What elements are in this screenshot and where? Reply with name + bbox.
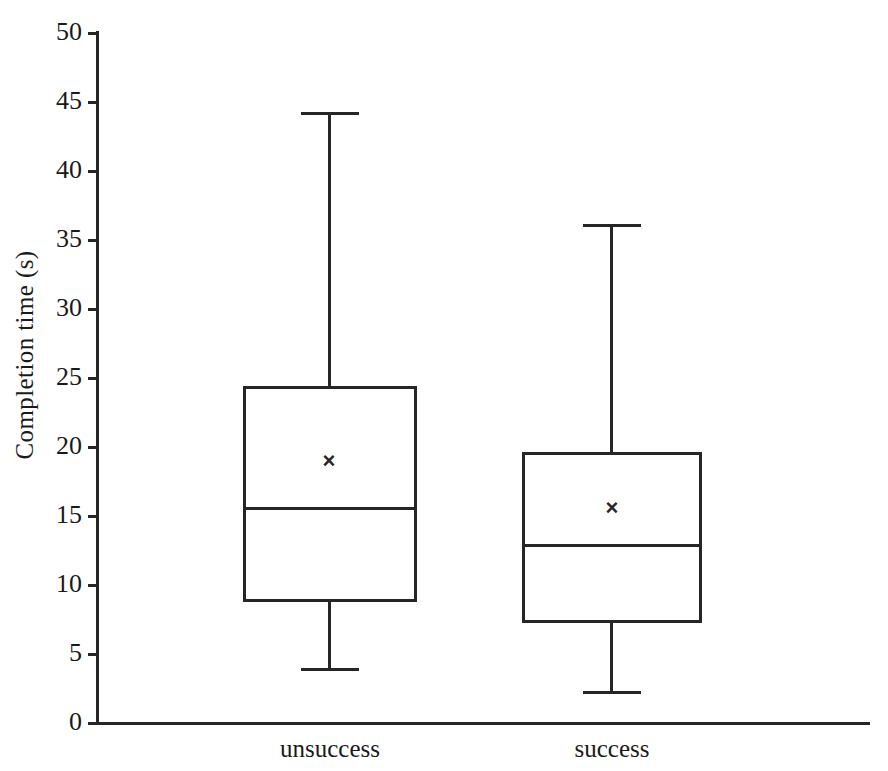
y-tick-label-20: 20 <box>36 433 82 459</box>
y-tick-mark-45 <box>88 101 97 104</box>
box-unsuccess-upper-whisker-stem <box>328 112 331 387</box>
box-unsuccess-lower-whisker-cap <box>301 668 359 671</box>
box-unsuccess-mean-marker: × <box>318 450 340 472</box>
y-tick-mark-20 <box>88 446 97 449</box>
box-unsuccess-median-line <box>243 507 417 510</box>
y-tick-label-wrap-15: 15 <box>20 502 82 528</box>
y-tick-mark-15 <box>88 515 97 518</box>
y-tick-label-wrap-10: 10 <box>20 571 82 597</box>
y-tick-label-5: 5 <box>36 640 82 666</box>
y-tick-label-50: 50 <box>36 19 82 45</box>
y-tick-mark-0 <box>88 722 97 725</box>
y-tick-label-10: 10 <box>36 571 82 597</box>
y-tick-label-15: 15 <box>36 502 82 528</box>
y-tick-label-45: 45 <box>36 88 82 114</box>
y-tick-label-30: 30 <box>36 295 82 321</box>
y-tick-label-35: 35 <box>36 226 82 252</box>
x-axis-label-unsuccess: unsuccess <box>230 735 430 763</box>
y-tick-label-wrap-35: 35 <box>20 226 82 252</box>
y-tick-label-0: 0 <box>36 709 82 735</box>
x-axis-line <box>96 722 870 725</box>
box-unsuccess-lower-whisker-stem <box>328 601 331 669</box>
y-tick-label-wrap-5: 5 <box>20 640 82 666</box>
y-tick-label-wrap-20: 20 <box>20 433 82 459</box>
y-tick-label-25: 25 <box>36 364 82 390</box>
y-tick-label-wrap-45: 45 <box>20 88 82 114</box>
y-tick-label-wrap-30: 30 <box>20 295 82 321</box>
y-tick-label-wrap-25: 25 <box>20 364 82 390</box>
box-plot-chart: Completion time (s) 50 45 40 35 30 25 20… <box>0 0 888 771</box>
box-unsuccess-body <box>243 386 417 602</box>
box-success-lower-whisker-cap <box>583 691 641 694</box>
x-axis-label-success: success <box>512 735 712 763</box>
box-success-mean-marker: × <box>601 497 623 519</box>
y-tick-mark-10 <box>88 584 97 587</box>
y-tick-mark-30 <box>88 308 97 311</box>
y-tick-label-wrap-40: 40 <box>20 157 82 183</box>
y-tick-mark-40 <box>88 170 97 173</box>
y-tick-mark-5 <box>88 653 97 656</box>
box-success-upper-whisker-stem <box>610 224 613 453</box>
box-success-lower-whisker-stem <box>610 622 613 692</box>
y-tick-label-wrap-0: 0 <box>20 709 82 735</box>
y-tick-mark-35 <box>88 239 97 242</box>
y-tick-mark-50 <box>88 32 97 35</box>
y-tick-label-40: 40 <box>36 157 82 183</box>
y-tick-label-wrap-50: 50 <box>20 19 82 45</box>
box-success-body <box>522 452 702 623</box>
y-tick-mark-25 <box>88 377 97 380</box>
box-success-median-line <box>522 544 702 547</box>
